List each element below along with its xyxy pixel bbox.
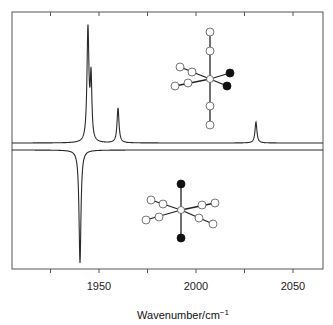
x-tick-label: 2000 (184, 280, 208, 292)
black-atom (223, 82, 231, 90)
white-atom (206, 28, 214, 36)
black-atom (177, 180, 185, 188)
x-tick-label: 2050 (281, 280, 305, 292)
white-atom (206, 121, 214, 129)
white-atom (206, 102, 214, 110)
x-axis-title: Wavenumber/cm−1 (137, 308, 229, 321)
white-atom (207, 76, 214, 83)
plot-frame (12, 12, 323, 269)
white-atom (198, 201, 206, 209)
top-molecule-structure-icon (171, 28, 234, 129)
bottom-molecule-structure-icon (142, 180, 219, 242)
black-atom (226, 69, 234, 77)
x-axis-tick-labels: 195020002050 (87, 280, 305, 292)
top-spectrum-trace (12, 25, 323, 143)
white-atom (147, 196, 155, 204)
white-atom (184, 79, 192, 87)
white-atom (206, 47, 214, 55)
white-atom (188, 68, 196, 76)
white-atom (209, 220, 217, 228)
bond (146, 210, 181, 220)
black-atom (177, 234, 185, 242)
ir-spectrum-chart: 195020002050 Wavenumber/cm−1 (0, 0, 333, 325)
white-atom (171, 82, 179, 90)
white-atom (159, 200, 167, 208)
bond (175, 79, 210, 86)
white-atom (195, 214, 203, 222)
white-atom (178, 207, 185, 214)
white-atom (155, 213, 163, 221)
white-atom (211, 199, 219, 207)
x-tick-label: 1950 (87, 280, 111, 292)
white-atom (176, 63, 184, 71)
bottom-spectrum-trace (12, 150, 323, 263)
white-atom (142, 216, 150, 224)
